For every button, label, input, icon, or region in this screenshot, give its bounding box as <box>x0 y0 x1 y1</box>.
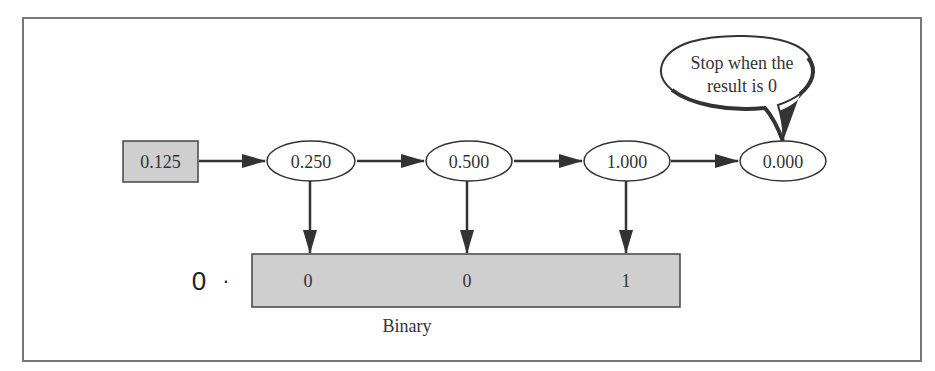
binary-label: Binary <box>383 316 432 336</box>
step-node: 0.500 <box>426 141 512 181</box>
step-node: 0.250 <box>267 141 355 181</box>
vertical-arrows <box>310 181 626 253</box>
binary-bit: 0 <box>463 271 472 291</box>
step-value: 0.000 <box>763 152 804 172</box>
binary-bit: 0 <box>304 271 313 291</box>
diagram-canvas: 0.125 0.250 0.500 1.000 0.000 Stop when … <box>0 0 935 371</box>
step-value: 0.500 <box>449 152 490 172</box>
step-node-final: 0.000 <box>740 141 826 181</box>
binary-point: · <box>222 268 229 293</box>
input-box: 0.125 <box>123 141 198 182</box>
step-node: 1.000 <box>584 141 670 181</box>
callout-line-1: Stop when the <box>691 53 794 73</box>
binary-bit: 1 <box>622 271 631 291</box>
step-value: 1.000 <box>607 152 648 172</box>
stop-callout: Stop when the result is 0 <box>661 36 813 141</box>
step-value: 0.250 <box>291 152 332 172</box>
callout-line-2: result is 0 <box>707 76 777 96</box>
binary-prefix-digit: 0 <box>192 266 206 296</box>
input-value: 0.125 <box>140 152 181 172</box>
binary-result-box: 0 0 1 <box>252 254 680 307</box>
